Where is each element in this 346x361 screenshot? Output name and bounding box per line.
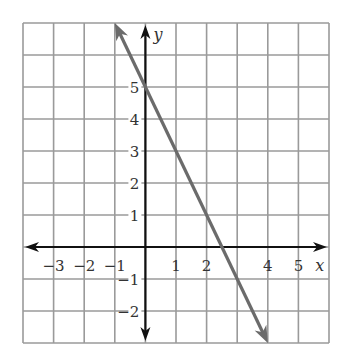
- x-tick-label: 2: [202, 257, 212, 275]
- coordinate-plane: −3−2−1124554321−1−2xy: [0, 0, 346, 361]
- x-tick-label: −3: [43, 257, 65, 275]
- y-tick-label: −2: [117, 303, 139, 321]
- x-tick-label: 4: [263, 257, 273, 275]
- x-tick-label: 5: [294, 257, 304, 275]
- y-tick-label: 3: [130, 143, 140, 161]
- y-tick-label: −1: [117, 271, 139, 289]
- y-tick-label: 4: [130, 111, 140, 129]
- y-tick-label: 1: [130, 207, 140, 225]
- grid: [23, 23, 329, 343]
- x-tick-label: −2: [73, 257, 95, 275]
- y-tick-label: 5: [130, 79, 140, 97]
- y-tick-label: 2: [130, 175, 140, 193]
- y-axis-label: y: [152, 25, 163, 44]
- x-axis-label: x: [315, 256, 324, 275]
- x-tick-label: 1: [171, 257, 181, 275]
